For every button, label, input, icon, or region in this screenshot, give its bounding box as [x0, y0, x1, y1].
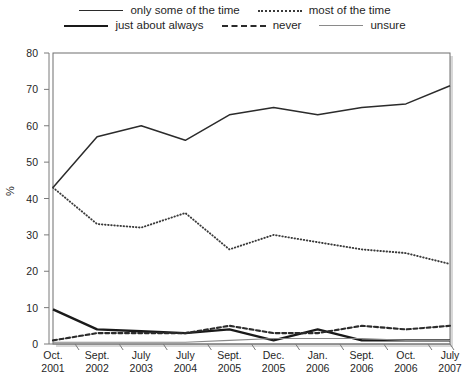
chart-canvas [0, 0, 470, 391]
plot-frame [53, 53, 450, 344]
chart-page: only some of the time most of the time j… [0, 0, 470, 391]
chart-plot-area: % 01020304050607080 Oct.2001Sept.2002Jul… [0, 0, 470, 391]
